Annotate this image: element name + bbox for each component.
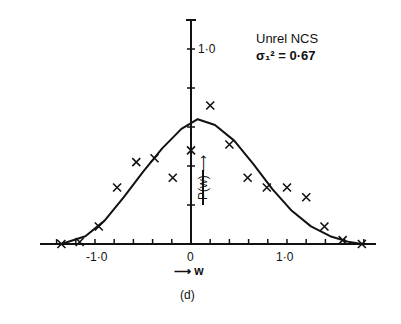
legend-variance: σ₁² = 0·67 (256, 47, 318, 64)
x-axis-label: ⟶ w (174, 264, 204, 278)
x-tick-label-neg1: -1·0 (86, 250, 107, 264)
y-axis-label: P(w) ⟶ (196, 155, 210, 200)
legend-title: Unrel NCS (256, 30, 318, 47)
x-tick-label-0: 0 (187, 250, 194, 264)
data-point-x-marker (225, 141, 233, 149)
y-tick-label-1: 1·0 (198, 42, 215, 56)
data-point-x-marker (320, 222, 328, 230)
data-point-x-marker (263, 183, 271, 191)
data-point-x-marker (302, 193, 310, 201)
x-tick-label-1: 1·0 (276, 250, 293, 264)
data-point-x-marker (113, 183, 121, 191)
data-point-x-marker (151, 154, 159, 162)
data-point-x-marker (169, 174, 177, 182)
data-point-x-marker (132, 158, 140, 166)
data-point-x-marker (244, 174, 252, 182)
data-point-x-marker (283, 183, 291, 191)
data-point-x-marker (206, 102, 214, 110)
theory-curve (61, 119, 362, 244)
legend: Unrel NCS σ₁² = 0·67 (256, 30, 318, 64)
figure-caption: (d) (180, 288, 195, 302)
